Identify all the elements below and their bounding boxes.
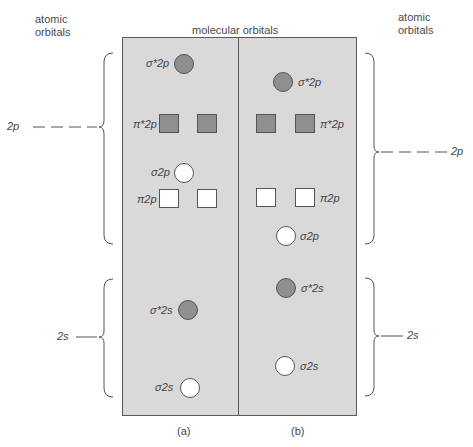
b-sigma-star-2s-orbital (276, 278, 296, 298)
a-sigma-star-2s-label: σ*2s (150, 304, 173, 316)
a-sigma-star-2p-orbital (174, 54, 194, 74)
brackets-layer (0, 0, 473, 447)
a-sigma-2p-label: σ2p (151, 166, 170, 178)
a-sigma-2s-label: σ2s (155, 381, 173, 393)
right-2s-label: 2s (407, 329, 419, 341)
right-2s-brace (365, 278, 379, 396)
a-pi-star-2p-orbital-1 (159, 114, 179, 133)
left-2s-label: 2s (57, 330, 69, 342)
a-pi-2p-orbital-2 (197, 189, 217, 208)
a-sigma-star-2s-orbital (178, 300, 198, 320)
b-pi-star-2p-orbital-1 (256, 114, 276, 133)
b-sigma-star-2p-label: σ*2p (298, 76, 321, 88)
left-2s-brace (99, 279, 113, 397)
b-pi-star-2p-orbital-2 (295, 114, 315, 133)
right-2p-brace (365, 53, 379, 244)
b-pi-2p-orbital-2 (295, 188, 315, 207)
caption-b: (b) (291, 425, 304, 437)
left-2p-brace (99, 53, 113, 244)
a-sigma-2p-orbital (174, 163, 194, 183)
a-sigma-star-2p-label: σ*2p (146, 57, 169, 69)
a-pi-star-2p-orbital-2 (197, 114, 217, 133)
a-sigma-2s-orbital (180, 378, 200, 398)
b-sigma-2s-orbital (275, 356, 295, 376)
b-pi-2p-orbital-1 (256, 188, 276, 207)
b-sigma-2p-orbital (276, 226, 296, 246)
a-pi-2p-label: π2p (137, 193, 157, 205)
caption-a: (a) (177, 425, 190, 437)
b-pi-2p-label: π2p (320, 192, 340, 204)
a-pi-2p-orbital-1 (159, 189, 179, 208)
a-pi-star-2p-label: π*2p (133, 118, 157, 130)
left-2p-label: 2p (7, 120, 19, 132)
b-sigma-2s-label: σ2s (300, 360, 318, 372)
b-sigma-star-2p-orbital (273, 72, 293, 92)
b-sigma-star-2s-label: σ*2s (301, 282, 324, 294)
right-2p-label: 2p (451, 145, 463, 157)
b-pi-star-2p-label: π*2p (320, 118, 344, 130)
b-sigma-2p-label: σ2p (300, 230, 319, 242)
